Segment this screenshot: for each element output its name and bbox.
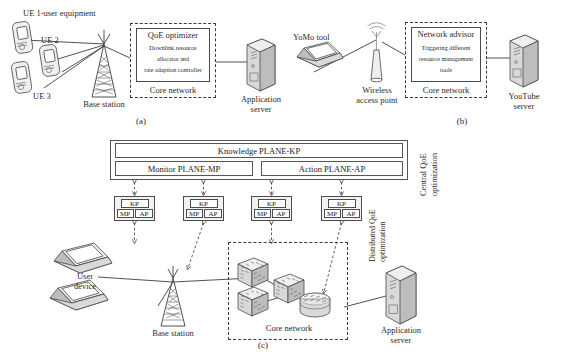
panel-c-graphics <box>0 130 564 354</box>
panel-a-caption: (a) <box>136 117 146 126</box>
wireless-ap-label-l2: access point <box>356 96 397 105</box>
distributed-qoe-label-l2: optimization <box>378 222 387 262</box>
qoe-optimizer-line3: rate adaption controller <box>144 67 202 74</box>
central-qoe-label-l1: Central QoE <box>418 153 428 196</box>
distributed-qoe-label-l1: Distributed QoE <box>368 209 377 262</box>
network-advisor-line3: tools <box>440 67 452 74</box>
laptop-icon-b <box>297 42 343 67</box>
panel-b-caption: (b) <box>457 117 468 126</box>
server-tower-icon-b <box>510 35 538 87</box>
yomo-tool-label: YoMo tool <box>293 33 330 42</box>
application-server-label-a-l2: server <box>251 105 272 114</box>
youtube-server-label-l1: YouTube <box>509 92 540 101</box>
network-advisor-line2: resource management <box>419 56 473 63</box>
base-station-label-c: Base station <box>152 329 193 338</box>
application-server-label-c-l1: Application <box>381 326 421 335</box>
core-network-label-a: Core network <box>150 86 197 95</box>
router-cube-icon-1 <box>238 258 268 287</box>
ue3-label: UE 3 <box>33 92 51 101</box>
qoe-optimizer-line2: allocator and <box>157 56 189 63</box>
router-cube-icon-3 <box>238 287 268 316</box>
laptop-icon-c1 <box>54 243 112 273</box>
panel-b: Network advisor Triggering different res… <box>282 0 564 130</box>
wireless-access-point-icon <box>368 23 386 82</box>
application-server-label-c-l2: server <box>391 336 412 345</box>
router-cube-icon-2 <box>274 274 304 303</box>
application-server-label-a-l1: Application <box>241 95 281 104</box>
network-advisor-line1: Triggering different <box>422 45 471 52</box>
qoe-optimizer-title: QoE optimizer <box>148 31 198 40</box>
panel-c-caption: (c) <box>258 341 268 350</box>
network-advisor-title: Network advisor <box>418 30 475 39</box>
central-qoe-label-l2: optimization <box>429 153 439 196</box>
phone-icon-ue2 <box>39 44 61 77</box>
ue1-label: UE 1-user equipment <box>23 9 96 18</box>
phone-icon-ue3 <box>11 61 33 94</box>
cell-tower-icon-a <box>92 30 116 97</box>
youtube-server-label-l2: server <box>514 102 535 111</box>
phone-icon-ue1 <box>12 21 34 54</box>
wireless-ap-label-l1: Wireless <box>362 86 391 95</box>
base-station-label-a: Base station <box>83 100 124 109</box>
core-network-label-b: Core network <box>423 86 470 95</box>
qoe-optimizer-line1: Downlink resource <box>149 45 196 52</box>
user-device-label-l1: User <box>77 272 93 281</box>
user-device-label-l2: device <box>74 282 96 291</box>
router-cylinder-icon <box>300 293 330 317</box>
core-network-label-c: Core network <box>266 324 313 333</box>
ue2-label: UE 2 <box>41 36 59 45</box>
panel-c: Knowledge PLANE-KP Monitor PLANE-MP Acti… <box>0 130 564 354</box>
panel-a: QoE optimizer Downlink resource allocato… <box>0 0 282 130</box>
server-tower-icon-a <box>247 39 275 91</box>
server-tower-icon-c <box>386 266 416 324</box>
